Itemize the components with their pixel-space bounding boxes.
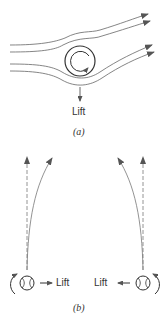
rotation-arrow-icon: [71, 51, 89, 71]
right-curved-path: [118, 158, 143, 270]
lift-label-right: Lift: [94, 277, 107, 288]
diagram-canvas: [0, 0, 166, 324]
streamline-upper-2: [10, 21, 150, 52]
left-ball: [11, 274, 52, 294]
streamline-lower-2: [10, 52, 154, 85]
right-spin-arrow-icon: [153, 274, 159, 294]
right-ball: [118, 274, 159, 294]
right-trajectory: [118, 157, 143, 270]
left-spin-arrow-icon: [11, 274, 17, 294]
caption-b: (b): [73, 302, 85, 313]
left-curved-path: [27, 158, 52, 270]
spinning-cylinder: [65, 46, 95, 76]
lift-label-a: Lift: [72, 106, 85, 117]
lift-label-left: Lift: [56, 277, 69, 288]
left-trajectory: [27, 157, 52, 270]
caption-a: (a): [73, 126, 85, 137]
streamline-upper-1: [10, 14, 148, 45]
streamlines: [10, 14, 154, 85]
